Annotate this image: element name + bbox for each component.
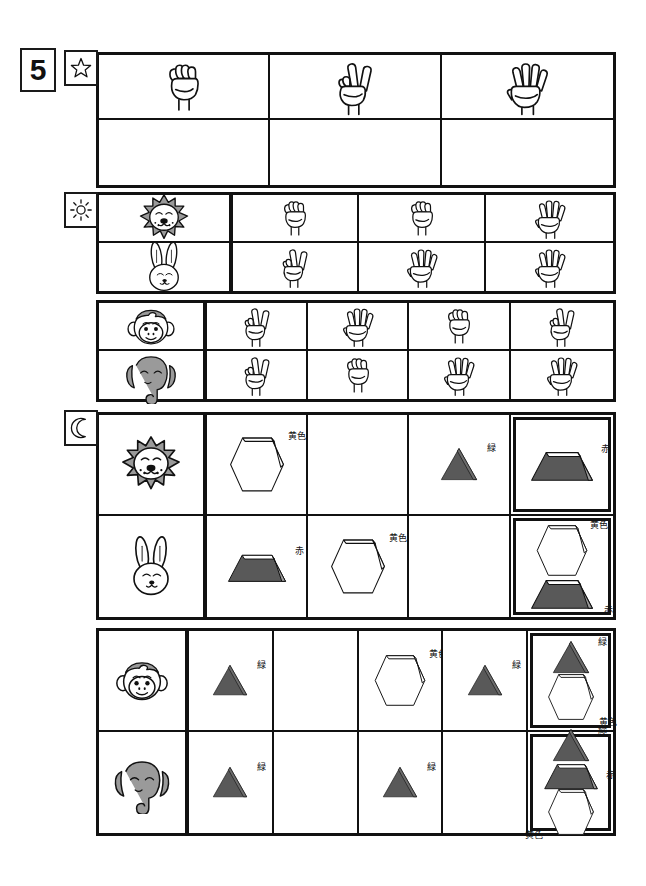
moon-icon <box>69 416 93 440</box>
hand-fist-icon <box>341 352 375 398</box>
shape-cell: 黄色 <box>308 516 409 617</box>
triangle-shape <box>210 765 250 800</box>
sun-group-b-table <box>96 300 616 402</box>
hand-peace-icon <box>278 244 312 290</box>
hand-fist-icon <box>278 195 312 241</box>
shape-with-label: 緑 <box>210 765 250 800</box>
shape-color-label: 緑 <box>598 638 607 647</box>
result-cell[interactable]: 赤 <box>511 415 613 516</box>
shape-cell: 緑 <box>359 732 444 833</box>
page-number-badge: 5 <box>20 48 56 92</box>
shape-with-label: 緑 <box>438 446 480 483</box>
hand-cell <box>511 351 613 399</box>
table-row: 緑 緑 緑 <box>99 732 613 833</box>
shape-stack: 赤 <box>529 446 595 483</box>
shape-cell <box>409 516 510 617</box>
hand-cell <box>486 195 613 243</box>
rabbit-icon <box>133 239 195 296</box>
moon-group-a-table: 黄色 緑 赤 <box>96 412 616 620</box>
trapezoid-shape <box>529 446 595 483</box>
hexagon-shape <box>325 536 391 597</box>
hand-peace-icon <box>240 303 274 349</box>
animal-cell-rabbit <box>99 243 233 291</box>
shape-with-label: 黄色 <box>325 536 391 597</box>
shape-color-label: 赤 <box>604 606 613 615</box>
shape-cell <box>443 732 528 833</box>
shape-color-label: 緑 <box>427 763 436 772</box>
star-answer-row[interactable] <box>99 120 613 185</box>
hand-open-icon <box>405 244 439 290</box>
star-marker <box>64 50 98 86</box>
animal-cell-elephant <box>99 732 189 833</box>
monkey-icon <box>108 649 176 712</box>
shape-color-label: 緑 <box>257 661 266 670</box>
shape-with-label: 赤 <box>529 574 595 611</box>
shape-cell: 緑 <box>443 631 528 732</box>
shape-with-label: 緑 <box>465 663 505 698</box>
sun-group-a-table <box>96 192 616 294</box>
result-cell[interactable]: 緑 赤 黄色 <box>528 732 613 833</box>
trapezoid-shape <box>226 549 288 584</box>
shape-with-label: 黄色 <box>531 522 593 579</box>
hand-cell <box>233 243 360 291</box>
star-header-row <box>99 55 613 120</box>
shape-color-label: 黄色 <box>389 534 407 543</box>
star-header-cell-3 <box>442 55 613 120</box>
shape-cell <box>274 732 359 833</box>
shape-color-label: 緑 <box>257 763 266 772</box>
table-row <box>99 243 613 291</box>
hand-cell <box>409 303 510 351</box>
hand-fist-icon <box>405 195 439 241</box>
hand-open-icon <box>533 195 567 241</box>
animal-cell-lion <box>99 195 233 243</box>
shape-cell: 赤 <box>207 516 308 617</box>
star-answer-cell-3[interactable] <box>442 120 613 185</box>
elephant-icon <box>108 751 176 814</box>
hexagon-shape <box>543 786 599 838</box>
hand-cell <box>409 351 510 399</box>
hand-cell <box>359 195 486 243</box>
shape-stack: 黄色 赤 <box>529 522 595 611</box>
shape-color-label: 赤 <box>295 547 304 556</box>
hand-peace-icon <box>240 352 274 398</box>
shape-color-label: 黄色 <box>590 521 608 530</box>
hand-cell <box>359 243 486 291</box>
table-row <box>99 351 613 399</box>
result-cell[interactable]: 緑 黄色 <box>528 631 613 732</box>
hexagon-shape <box>224 434 290 495</box>
shape-color-label: 黄色 <box>525 831 543 840</box>
hexagon-shape <box>531 522 593 579</box>
star-answer-cell-1[interactable] <box>99 120 270 185</box>
hand-open-icon <box>504 56 550 118</box>
shape-color-label: 赤 <box>606 771 615 780</box>
triangle-shape <box>210 663 250 698</box>
triangle-shape <box>380 765 420 800</box>
elephant-icon <box>120 347 182 404</box>
shape-stack: 緑 黄色 <box>543 639 599 723</box>
star-section-table <box>96 52 616 188</box>
result-cell[interactable]: 黄色 赤 <box>511 516 613 617</box>
star-answer-cell-2[interactable] <box>270 120 441 185</box>
table-row: 赤 黄色 黄色 <box>99 516 613 617</box>
shape-with-label: 黄色 <box>369 652 431 709</box>
shape-cell <box>274 631 359 732</box>
hand-cell <box>308 351 409 399</box>
shape-color-label: 黄色 <box>288 432 306 441</box>
worksheet-page: 5 <box>0 0 646 886</box>
shape-color-label: 緑 <box>512 661 521 670</box>
shape-with-label: 緑 <box>210 663 250 698</box>
hand-cell <box>207 303 308 351</box>
hand-cell <box>233 195 360 243</box>
hand-fist-icon <box>442 303 476 349</box>
animal-cell-monkey <box>99 303 207 351</box>
shape-with-label: 緑 <box>380 765 420 800</box>
rabbit-icon <box>114 533 188 601</box>
hand-cell <box>308 303 409 351</box>
hand-cell <box>511 303 613 351</box>
shape-with-label: 黄色 <box>543 786 599 838</box>
hand-open-icon <box>533 244 567 290</box>
shape-cell: 緑 <box>189 631 274 732</box>
trapezoid-shape <box>529 574 595 611</box>
sun-icon <box>69 198 93 222</box>
table-row <box>99 303 613 351</box>
